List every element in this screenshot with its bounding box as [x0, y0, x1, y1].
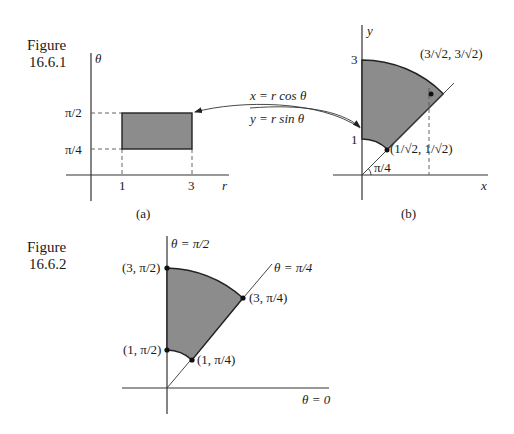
point-1-pi-over-4	[189, 357, 194, 362]
tick-r-3: 3	[188, 178, 195, 193]
panel-a: θ r π/2 π/4 1 3 (a)	[65, 51, 229, 221]
point-3-pi-over-4	[240, 295, 245, 300]
label-theta-0: θ = 0	[302, 392, 331, 407]
figure1-caption-number: 16.6.1	[29, 54, 67, 70]
label-point-outer: (3/√2, 3/√2)	[420, 46, 483, 61]
label-point-1-pi-over-4: (1, π/4)	[197, 352, 235, 367]
figure1-caption-word: Figure	[27, 37, 67, 53]
transform-x-equation: x = r cos θ	[249, 88, 307, 103]
figure2-caption-word: Figure	[27, 239, 67, 255]
label-point-inner: (1/√2, 1/√2)	[390, 141, 453, 156]
figure-page: Figure 16.6.1 θ r π/2 π/4 1 3 (a) x = r …	[0, 0, 514, 434]
label-point-1-pi-over-2: (1, π/2)	[123, 342, 161, 357]
label-theta-pi-over-2: θ = π/2	[171, 236, 210, 251]
panel-a-sublabel: (a)	[136, 206, 150, 221]
figure-canvas: Figure 16.6.1 θ r π/2 π/4 1 3 (a) x = r …	[0, 0, 514, 434]
tick-pi-over-2: π/2	[65, 105, 82, 120]
r-axis-label: r	[222, 178, 228, 193]
figure2-caption-number: 16.6.2	[29, 256, 67, 272]
transform-mapping: x = r cos θ y = r sin θ	[195, 88, 360, 128]
panel-b: y x 3 1 (3/√2, 3/√2) (1/√2, 1/√2) π/4 (b…	[333, 23, 488, 221]
rectangle-region	[122, 113, 192, 149]
point-outer	[429, 92, 434, 97]
transform-y-equation: y = r sin θ	[248, 111, 305, 126]
sector-region	[362, 60, 443, 150]
tick-r-1: 1	[119, 178, 126, 193]
label-point-3-pi-over-4: (3, π/4)	[249, 290, 287, 305]
angle-arc	[368, 169, 371, 175]
x-axis-label: x	[480, 178, 487, 193]
label-point-3-pi-over-2: (3, π/2)	[122, 260, 160, 275]
sector-region-polar	[167, 268, 243, 360]
point-inner	[385, 148, 390, 153]
tick-y-3: 3	[351, 52, 358, 67]
tick-pi-over-4: π/4	[65, 142, 82, 157]
theta-axis-label: θ	[95, 51, 102, 66]
label-angle: π/4	[374, 160, 391, 175]
figure2-polar-region: θ = π/2 θ = π/4 θ = 0 (3, π/2) (3, π/4) …	[122, 236, 331, 414]
panel-b-sublabel: (b)	[401, 206, 416, 221]
point-1-pi-over-2	[164, 347, 169, 352]
tick-y-1: 1	[351, 132, 358, 147]
label-theta-pi-over-4: θ = π/4	[274, 260, 313, 275]
y-axis-label: y	[365, 23, 373, 38]
point-3-pi-over-2	[164, 265, 169, 270]
